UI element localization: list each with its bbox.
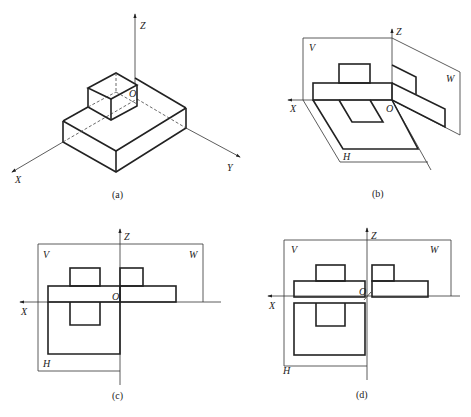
w-label: W	[446, 73, 456, 84]
y-axis	[186, 128, 240, 157]
panel-c: Z V W O X H (c)	[20, 229, 221, 402]
x-axis	[12, 142, 63, 172]
w-plane	[367, 240, 451, 296]
caption-c: (c)	[112, 390, 123, 402]
caption-b: (b)	[372, 188, 384, 200]
z-label: Z	[371, 230, 377, 241]
v-h-plane	[38, 244, 120, 371]
panel-a: Z O X Y (a)	[12, 14, 240, 201]
caption-d: (d)	[356, 389, 368, 401]
panel-d: Z V W O X H (d)	[268, 228, 460, 401]
z-label: Z	[396, 26, 402, 37]
x-label: X	[268, 300, 276, 311]
x-label: X	[20, 306, 28, 317]
h-label: H	[282, 365, 291, 376]
origin-label: O	[129, 88, 136, 99]
h-label: H	[342, 151, 351, 162]
h-label: H	[42, 358, 51, 369]
v-label: V	[43, 249, 51, 260]
w-label: W	[189, 249, 199, 260]
z-label: Z	[140, 20, 146, 31]
origin-label: O	[386, 103, 393, 114]
caption-a: (a)	[112, 189, 123, 201]
v-label: V	[309, 42, 317, 53]
origin-label: O	[359, 286, 366, 297]
origin-label: O	[112, 291, 119, 302]
base-outline	[63, 108, 186, 172]
z-label: Z	[124, 231, 130, 242]
base-top-front	[63, 108, 186, 151]
w-label: W	[430, 244, 440, 255]
x-label: X	[14, 174, 22, 185]
panel-b: Z V W X O H (b)	[288, 26, 460, 200]
projection-diagram: Z O X Y (a) Z V W X O H (b)	[0, 0, 471, 417]
v-plane	[303, 38, 392, 100]
x-label: X	[289, 103, 297, 114]
y-label: Y	[227, 162, 234, 173]
v-label: V	[291, 244, 299, 255]
